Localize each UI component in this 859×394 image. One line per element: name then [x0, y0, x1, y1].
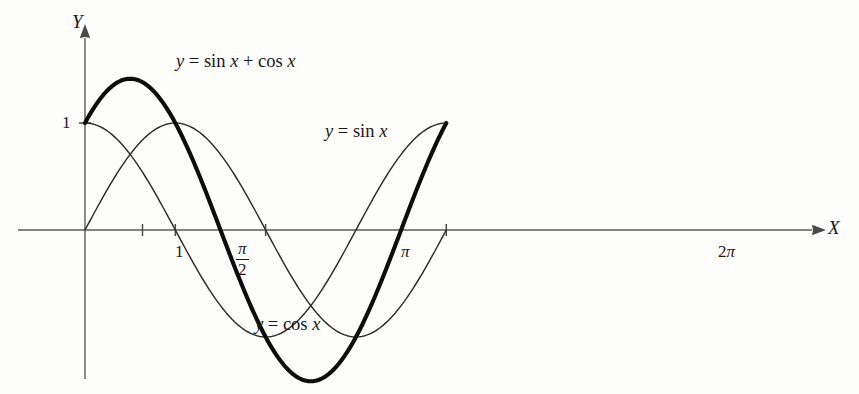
- x-tick-label-pi-over-2: π 2: [236, 240, 249, 280]
- axes-group: [18, 24, 826, 379]
- var-x-2: x: [287, 51, 295, 71]
- cos-text: cos: [258, 51, 283, 71]
- plot-canvas: [0, 0, 859, 394]
- fraction-denominator: 2: [236, 260, 249, 279]
- var-x: x: [379, 121, 387, 141]
- var-y: y: [176, 51, 184, 71]
- y-axis-label: Y: [72, 12, 83, 31]
- var-x-1: x: [230, 51, 238, 71]
- x-axis-label: X: [828, 218, 840, 237]
- axis-tick-marks: [79, 123, 446, 236]
- x-axis-arrow-icon: [812, 225, 826, 235]
- pi-glyph: π: [727, 242, 736, 261]
- var-x: x: [312, 314, 320, 334]
- plus-sign: +: [243, 51, 253, 71]
- x-tick-label-2pi: 2π: [718, 243, 735, 260]
- curve-label-cos: y = cos x: [255, 315, 320, 334]
- x-tick-label-1: 1: [175, 243, 184, 260]
- y-tick-label-1: 1: [62, 114, 71, 131]
- x-tick-label-pi: π: [401, 243, 410, 260]
- curve-label-sin-plus-cos: y = sin x + cos x: [176, 52, 296, 71]
- trigonometric-graph-figure: Y X 1 1 π 2 π 2π y = sin x + cos x y = s…: [0, 0, 859, 394]
- fraction-pi-over-2: π 2: [236, 240, 249, 280]
- var-y: y: [255, 314, 263, 334]
- fraction-numerator: π: [236, 240, 249, 260]
- equals-sign: =: [189, 51, 199, 71]
- sin-text: sin: [204, 51, 226, 71]
- curve-label-sin: y = sin x: [325, 122, 387, 141]
- var-y: y: [325, 121, 333, 141]
- two-digit: 2: [718, 242, 727, 261]
